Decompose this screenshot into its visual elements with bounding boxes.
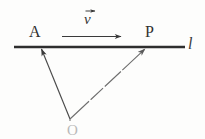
label-point-a: A	[29, 24, 41, 40]
label-line-l: l	[188, 36, 192, 52]
physics-diagram-figure: A P l O v	[0, 0, 205, 139]
label-point-o: O	[67, 123, 78, 138]
diagram-canvas	[0, 0, 205, 139]
vector-o-to-a	[42, 49, 71, 119]
label-velocity-v: v	[84, 12, 91, 27]
vector-o-to-p	[70, 49, 145, 119]
label-point-p: P	[145, 24, 154, 40]
point-o-marker	[69, 119, 71, 121]
